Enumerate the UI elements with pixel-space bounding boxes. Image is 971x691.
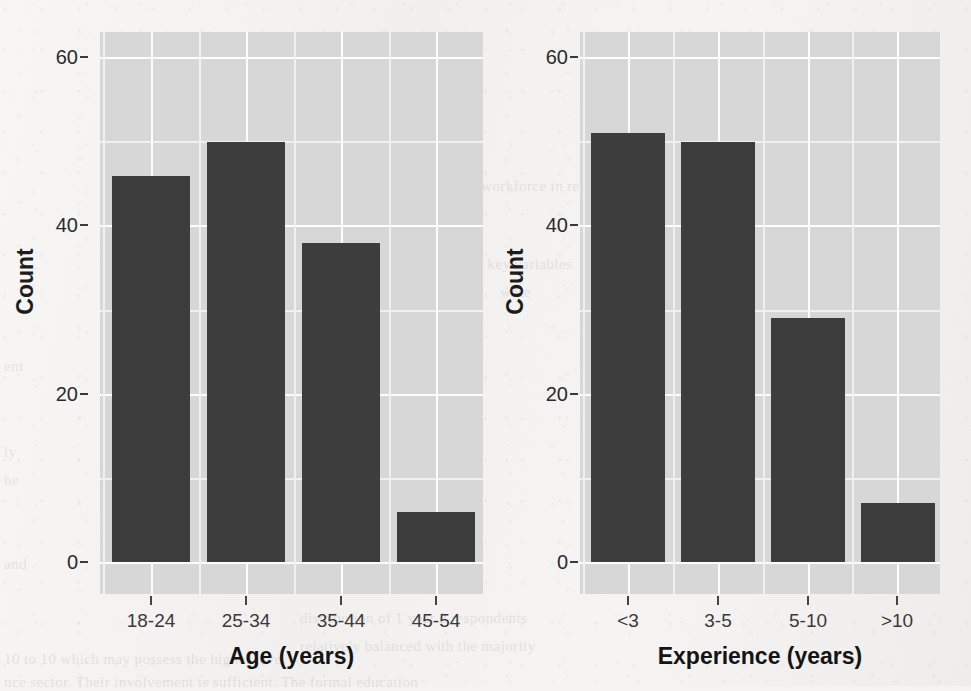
bar-3-5 [681, 142, 755, 562]
y-axis-ticks-age-panel: 60 40 20 0 [42, 0, 88, 586]
bar-25-34 [207, 142, 285, 562]
gridline-x-minor-2 [763, 32, 765, 594]
x-axis-tick-labels-experience: <3 3-5 5-10 >10 [580, 610, 940, 636]
x-axis-title-age: Age (years) [100, 643, 483, 670]
y-axis-title-label: Count [12, 248, 39, 314]
x-tick-label: 18-24 [127, 610, 176, 632]
chart-panel-experience: Count 60 40 20 0 [490, 0, 971, 686]
y-axis-title-age-panel: Count [8, 0, 42, 562]
bar-45-54 [397, 512, 475, 562]
y-tick-mark [80, 56, 88, 58]
x-axis-title-experience: Experience (years) [580, 643, 940, 670]
x-axis-tick-labels-age: 18-24 25-34 35-44 45-54 [100, 610, 483, 636]
x-tick-mark [717, 596, 719, 605]
x-tick-mark [435, 596, 437, 605]
x-tick-mark [245, 596, 247, 605]
gridline-x-minor-3 [389, 32, 391, 594]
y-tick-label: 0 [557, 551, 568, 574]
x-axis-tick-marks-age [100, 596, 483, 605]
x-tick-mark [340, 596, 342, 605]
gridline-x-major-4 [436, 32, 438, 594]
bar-5-10 [771, 318, 845, 562]
plot-area-experience [580, 32, 940, 594]
y-tick-mark [80, 224, 88, 226]
x-tick-label: >10 [881, 610, 913, 632]
y-tick-label: 40 [56, 214, 78, 237]
y-tick-label: 0 [67, 551, 78, 574]
y-tick-label: 20 [546, 383, 568, 406]
gridline-x-minor-1 [673, 32, 675, 594]
x-tick-label: 3-5 [704, 610, 731, 632]
y-tick-label: 40 [546, 214, 568, 237]
x-tick-mark [896, 596, 898, 605]
y-tick-mark [80, 393, 88, 395]
bar-gt10 [861, 503, 935, 562]
gridline-x-minor-2 [294, 32, 296, 594]
chart-panel-age: Count 60 40 20 0 [0, 0, 500, 686]
y-tick-mark [570, 393, 578, 395]
x-tick-mark [807, 596, 809, 605]
y-tick-mark [570, 561, 578, 563]
x-tick-label: 25-34 [222, 610, 271, 632]
plot-area-age [100, 32, 483, 594]
gridline-y-0 [100, 562, 483, 564]
x-tick-mark [150, 596, 152, 605]
x-tick-label: 45-54 [412, 610, 461, 632]
x-tick-label: 35-44 [317, 610, 366, 632]
x-tick-label: 5-10 [789, 610, 827, 632]
gridline-y-60 [580, 57, 940, 59]
gridline-x-minor-3 [852, 32, 854, 594]
y-tick-mark [570, 56, 578, 58]
bar-18-24 [112, 176, 190, 562]
y-axis-title-label: Count [502, 248, 529, 314]
y-tick-mark [570, 224, 578, 226]
gridline-y-50 [100, 141, 483, 143]
y-tick-label: 60 [546, 46, 568, 69]
y-tick-label: 60 [56, 46, 78, 69]
bar-35-44 [302, 243, 380, 562]
y-tick-mark [80, 561, 88, 563]
x-tick-label: <3 [617, 610, 639, 632]
y-tick-label: 20 [56, 383, 78, 406]
gridline-x-minor-1 [199, 32, 201, 594]
y-axis-ticks-experience-panel: 60 40 20 0 [532, 0, 578, 586]
gridline-x-minor-0 [583, 32, 585, 594]
x-axis-tick-marks-experience [580, 596, 940, 605]
gridline-x-minor-0 [103, 32, 105, 594]
x-tick-mark [627, 596, 629, 605]
y-axis-title-experience-panel: Count [498, 0, 532, 562]
gridline-y-60 [100, 57, 483, 59]
bar-lt3 [591, 133, 665, 562]
gridline-y-0 [580, 562, 940, 564]
